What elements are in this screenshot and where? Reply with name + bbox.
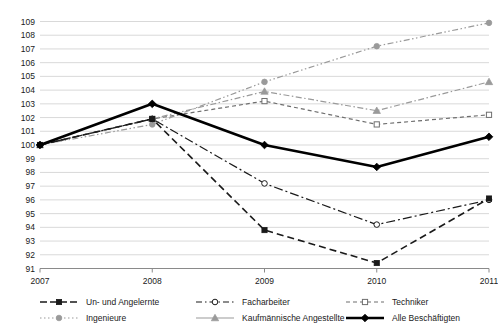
data-point-marker — [262, 181, 268, 187]
x-axis — [40, 269, 489, 273]
data-point-marker — [261, 88, 268, 94]
x-axis-tick-label: 2007 — [31, 276, 50, 286]
data-point-marker — [486, 196, 491, 201]
chart-canvas: 9192939495969798991001011021031041051061… — [0, 0, 498, 333]
y-axis-tick-label: 93 — [26, 236, 36, 246]
data-point-marker — [374, 222, 380, 228]
x-axis-tick-label: 2008 — [143, 276, 162, 286]
x-axis-tick-labels: 20072008200920102011 — [31, 276, 498, 286]
legend-item: Ingenieure — [40, 313, 126, 323]
y-axis-tick-label: 103 — [21, 99, 35, 109]
data-series — [37, 116, 491, 265]
y-axis-tick-label: 105 — [21, 71, 35, 81]
legend-swatch-marker — [56, 299, 61, 304]
y-axis-tick-label: 96 — [26, 195, 36, 205]
y-axis-tick-label: 95 — [26, 209, 36, 219]
data-series-group — [36, 20, 493, 266]
data-point-marker — [150, 116, 155, 121]
legend-swatch-marker — [56, 315, 62, 321]
data-point-marker — [373, 163, 381, 171]
legend-item: Un- und Angelernte — [40, 297, 160, 307]
y-axis-tick-label: 107 — [21, 44, 35, 54]
data-point-marker — [149, 122, 155, 128]
data-point-marker — [374, 122, 379, 127]
data-point-marker — [261, 141, 269, 149]
y-axis-tick-label: 109 — [21, 17, 35, 27]
series-line — [40, 104, 489, 167]
data-point-marker — [374, 260, 379, 265]
legend-item-label: Kaufmännische Angestellte — [242, 313, 345, 323]
y-axis-tick-label: 92 — [26, 250, 36, 260]
data-point-marker — [262, 79, 268, 85]
x-axis-tick-label: 2011 — [480, 276, 498, 286]
y-axis-tick-label: 98 — [26, 167, 36, 177]
chart-legend: Un- und AngelernteFacharbeiterTechnikerI… — [40, 297, 460, 323]
legend-swatch-marker — [362, 299, 367, 304]
legend-item-label: Un- und Angelernte — [86, 297, 160, 307]
data-point-marker — [485, 78, 492, 84]
y-axis-tick-label: 97 — [26, 181, 36, 191]
data-series — [36, 78, 492, 148]
x-axis-tick-label: 2010 — [367, 276, 386, 286]
data-point-marker — [485, 133, 493, 141]
data-point-marker — [374, 43, 380, 49]
y-axis-tick-labels: 9192939495969798991001011021031041051061… — [21, 17, 35, 274]
y-axis-tick-label: 104 — [21, 85, 35, 95]
legend-item: Techniker — [346, 297, 429, 307]
y-axis-tick-label: 99 — [26, 154, 36, 164]
data-series — [36, 100, 493, 171]
line-chart: 9192939495969798991001011021031041051061… — [0, 0, 498, 333]
y-axis-tick-label: 91 — [26, 264, 36, 274]
legend-item-label: Ingenieure — [86, 313, 126, 323]
series-line — [40, 119, 489, 225]
x-axis-tick-label: 2009 — [255, 276, 274, 286]
y-axis-tick-label: 106 — [21, 58, 35, 68]
data-point-marker — [486, 112, 491, 117]
y-axis-tick-label: 108 — [21, 30, 35, 40]
series-line — [40, 101, 489, 145]
data-series — [37, 20, 492, 148]
y-axis-tick-label: 94 — [26, 222, 36, 232]
data-series — [37, 98, 491, 147]
legend-swatch-marker — [212, 299, 218, 305]
legend-item-label: Facharbeiter — [242, 297, 290, 307]
legend-item-label: Techniker — [392, 297, 429, 307]
y-axis-tick-label: 100 — [21, 140, 35, 150]
legend-item-label: Alle Beschäftigten — [392, 313, 460, 323]
legend-item: Facharbeiter — [196, 297, 290, 307]
legend-item: Kaufmännische Angestellte — [196, 313, 345, 323]
data-point-marker — [486, 20, 492, 26]
data-point-marker — [262, 227, 267, 232]
legend-swatch-marker — [361, 314, 369, 322]
legend-item: Alle Beschäftigten — [346, 313, 460, 323]
y-axis-tick-label: 101 — [21, 126, 35, 136]
data-point-marker — [262, 98, 267, 103]
data-point-marker — [148, 100, 156, 108]
y-axis-tick-label: 102 — [21, 113, 35, 123]
